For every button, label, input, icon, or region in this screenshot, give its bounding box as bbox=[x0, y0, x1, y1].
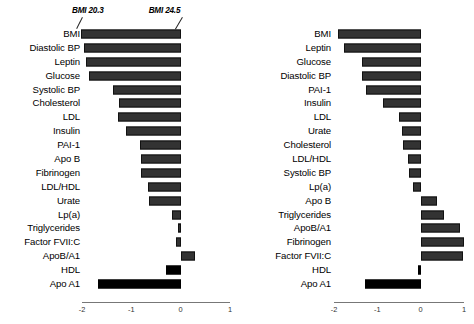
x-axis-left bbox=[82, 302, 230, 303]
bar-category-label: ApoB/A1 bbox=[0, 251, 80, 261]
bar-row: Urate bbox=[237, 124, 474, 138]
bar-plot-area bbox=[82, 41, 230, 55]
bar-category-label: Apo B bbox=[245, 196, 331, 206]
bar-plot-area bbox=[82, 277, 230, 291]
bar-category-label: LDL bbox=[245, 112, 331, 122]
bar-plot-area bbox=[82, 124, 230, 138]
bar-category-label: LDL/HDL bbox=[0, 182, 80, 192]
bar-row: PAI-1 bbox=[0, 138, 237, 152]
bar-category-label: HDL bbox=[245, 265, 331, 275]
bar-row: HDL bbox=[0, 263, 237, 277]
bar-category-label: Leptin bbox=[0, 57, 80, 67]
bar-plot-area bbox=[82, 55, 230, 69]
bar-rows-left: BMIDiastolic BPLeptinGlucoseSystolic BPC… bbox=[0, 27, 237, 291]
bar-row: Apo B bbox=[0, 152, 237, 166]
bar-plot-area bbox=[334, 55, 464, 69]
x-axis-right bbox=[334, 302, 464, 303]
bar bbox=[181, 252, 196, 261]
bar-plot-area bbox=[82, 208, 230, 222]
bar-category-label: Lp(a) bbox=[0, 210, 80, 220]
bar-row: LDL/HDL bbox=[237, 152, 474, 166]
x-tick-label: -2 bbox=[79, 306, 86, 314]
bar bbox=[402, 127, 421, 136]
bar-row: Fibrinogen bbox=[237, 235, 474, 249]
bar bbox=[141, 168, 180, 177]
bar-category-label: BMI bbox=[245, 29, 331, 39]
bar-category-label: Cholesterol bbox=[245, 140, 331, 150]
bar bbox=[365, 279, 420, 288]
bar-plot-area bbox=[82, 221, 230, 235]
bar-category-label: Glucose bbox=[0, 71, 80, 81]
bar-row: Diastolic BP bbox=[0, 41, 237, 55]
bar-row: Apo A1 bbox=[237, 277, 474, 291]
bar-row: Apo B bbox=[237, 194, 474, 208]
bar-row: Glucose bbox=[237, 55, 474, 69]
bar-plot-area bbox=[334, 41, 464, 55]
bar-plot-area bbox=[334, 27, 464, 41]
bar-row: Insulin bbox=[0, 124, 237, 138]
bar-category-label: Leptin bbox=[245, 43, 331, 53]
bar-row: Urate bbox=[0, 194, 237, 208]
bar-plot-area bbox=[334, 124, 464, 138]
bar-plot-area bbox=[82, 194, 230, 208]
bar-row: Factor FVII:C bbox=[0, 235, 237, 249]
bar bbox=[89, 71, 180, 80]
bar-plot-area bbox=[82, 138, 230, 152]
bar bbox=[86, 57, 181, 66]
bar-category-label: Factor FVII:C bbox=[0, 237, 80, 247]
x-tick-label: -2 bbox=[331, 306, 338, 314]
bar-row: LDL/HDL bbox=[0, 180, 237, 194]
bar-category-label: Insulin bbox=[0, 126, 80, 136]
bar-row: LDL bbox=[0, 110, 237, 124]
x-tick-label: 0 bbox=[179, 306, 183, 314]
bar-plot-area bbox=[82, 69, 230, 83]
bar-row: Leptin bbox=[237, 41, 474, 55]
bar bbox=[421, 252, 463, 261]
bar bbox=[362, 57, 421, 66]
bar-category-label: Systolic BP bbox=[245, 168, 331, 178]
figure-root: BMI 20.3 BMI 24.5 BMIDiastolic BPLeptinG… bbox=[0, 0, 474, 324]
bar bbox=[84, 43, 180, 52]
bar-rows-right: BMILeptinGlucoseDiastolic BPPAI-1Insulin… bbox=[237, 27, 474, 291]
chart-panel-left: BMI 20.3 BMI 24.5 BMIDiastolic BPLeptinG… bbox=[0, 0, 237, 324]
bar-category-label: Fibrinogen bbox=[245, 237, 331, 247]
bar-plot-area bbox=[82, 166, 230, 180]
bar bbox=[421, 196, 437, 205]
bar bbox=[176, 238, 181, 247]
x-tick-label: -1 bbox=[374, 306, 381, 314]
bar-plot-area bbox=[82, 27, 230, 41]
bar bbox=[172, 210, 180, 219]
bar bbox=[166, 266, 181, 275]
bar-row: Cholesterol bbox=[0, 96, 237, 110]
bar-row: Diastolic BP bbox=[237, 69, 474, 83]
bar-row: LDL bbox=[237, 110, 474, 124]
x-tick-label: 1 bbox=[228, 306, 232, 314]
bar-category-label: Diastolic BP bbox=[245, 71, 331, 81]
bar-category-label: ApoB/A1 bbox=[245, 223, 331, 233]
bar-plot-area bbox=[82, 180, 230, 194]
bar-plot-area bbox=[334, 277, 464, 291]
bar-plot-area bbox=[334, 96, 464, 110]
bar-category-label: Apo A1 bbox=[0, 279, 80, 289]
bar-row: Leptin bbox=[0, 55, 237, 69]
bar-category-label: Cholesterol bbox=[0, 98, 80, 108]
x-tick-label: 1 bbox=[462, 306, 466, 314]
bar bbox=[409, 168, 420, 177]
bar-plot-area bbox=[82, 152, 230, 166]
bar bbox=[344, 43, 421, 52]
bar-row: HDL bbox=[237, 263, 474, 277]
bar bbox=[408, 154, 421, 163]
bar-row: Cholesterol bbox=[237, 138, 474, 152]
bar-plot-area bbox=[82, 249, 230, 263]
bar-row: Triglycerides bbox=[0, 221, 237, 235]
bar-category-label: Diastolic BP bbox=[0, 43, 80, 53]
bar-row: Glucose bbox=[0, 69, 237, 83]
bar-category-label: Factor FVII:C bbox=[245, 251, 331, 261]
bar bbox=[421, 210, 445, 219]
chart-panel-right: BMILeptinGlucoseDiastolic BPPAI-1Insulin… bbox=[237, 0, 474, 324]
bmi-low-annotation: BMI 20.3 bbox=[72, 6, 104, 15]
bar-category-label: Apo B bbox=[0, 154, 80, 164]
bar bbox=[118, 113, 181, 122]
bar-plot-area bbox=[82, 96, 230, 110]
bar-plot-area bbox=[82, 110, 230, 124]
